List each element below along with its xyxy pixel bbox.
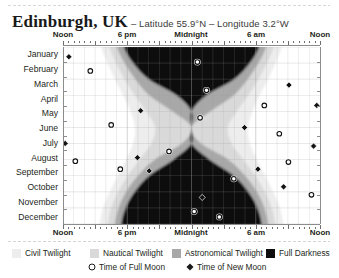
legend-row-moons: Time of Full Moon Time of New Moon (0, 262, 339, 276)
hour-tick (320, 41, 321, 45)
month-label-november: November (0, 197, 58, 207)
month-tick (317, 209, 320, 210)
hour-tick (266, 41, 267, 43)
hour-tick (63, 41, 64, 45)
full-moon-marker (192, 209, 197, 214)
legend-item-astronomical: Astronomical Twilight (172, 248, 263, 258)
hour-tick (170, 41, 171, 43)
legend-label-nautical: Nautical Twilight (103, 248, 163, 258)
hour-tick (315, 41, 316, 43)
hour-tick (106, 41, 107, 43)
month-tick (64, 62, 67, 63)
astronomical-twilight-swatch-icon (172, 249, 181, 258)
twilight-bands-svg (63, 47, 320, 224)
hour-tick (165, 41, 166, 43)
x-label-top-noon-left: Noon (53, 30, 73, 39)
hour-tick (100, 41, 101, 43)
full-moon-marker (195, 60, 200, 65)
month-tick (317, 77, 320, 78)
hour-tick (186, 41, 187, 43)
hour-tick (133, 41, 134, 43)
hour-tick (240, 41, 241, 43)
hour-tick (192, 41, 193, 45)
legend-row-bands: Civil Twilight Nautical Twilight Astrono… (0, 248, 339, 262)
hour-tick (304, 41, 305, 43)
hour-tick (127, 41, 128, 45)
x-axis-ticks-top (63, 41, 320, 46)
legend-label-full-moon: Time of Full Moon (99, 262, 165, 272)
month-tick (64, 91, 67, 92)
twilight-plot-canvas (63, 47, 320, 224)
hour-tick (224, 41, 225, 45)
x-label-top-6pm: 6 pm (118, 30, 137, 39)
chart-legend: Civil Twilight Nautical Twilight Astrono… (0, 248, 339, 276)
legend-item-civil: Civil Twilight (12, 248, 71, 258)
hour-tick (181, 41, 182, 43)
y-axis-month-labels: JanuaryFebruaryMarchAprilMayJuneJulyAugu… (0, 47, 58, 224)
hour-tick (154, 41, 155, 43)
hour-tick (197, 41, 198, 43)
full-moon-marker (262, 103, 267, 108)
hour-tick (175, 41, 176, 43)
full-moon-marker (277, 131, 282, 136)
sun-moon-chart-page: Edinburgh, UK– Latitude 55.9°N – Longitu… (0, 0, 339, 278)
month-tick (64, 180, 67, 181)
hour-tick (95, 41, 96, 45)
civil-twilight-swatch-icon (12, 249, 21, 258)
hour-tick (245, 41, 246, 43)
hour-tick (256, 41, 257, 45)
x-axis-labels-top: Noon 6 pm Midnight 6 am Noon (0, 30, 339, 41)
hour-tick (277, 41, 278, 43)
month-label-march: March (0, 79, 58, 89)
full-moon-marker (73, 159, 78, 164)
hour-tick (117, 41, 118, 43)
x-label-top-midnight: Midnight (174, 30, 207, 39)
month-tick (64, 121, 67, 122)
hour-tick (68, 41, 69, 43)
full-moon-marker (118, 167, 123, 172)
hour-tick (122, 41, 123, 43)
title-place: Edinburgh, UK (12, 12, 128, 31)
hour-tick (111, 41, 112, 43)
hour-tick (309, 41, 310, 43)
full-darkness-swatch-icon (266, 249, 275, 258)
top-divider-rule (8, 5, 330, 6)
x-axis-labels-bottom: Noon 6 pm Midnight 6 am Noon (0, 228, 339, 239)
month-tick (317, 62, 320, 63)
x-label-bottom-noon-left: Noon (53, 228, 73, 237)
month-label-august: August (0, 153, 58, 163)
month-tick (317, 195, 320, 196)
legend-item-new-moon: Time of New Moon (186, 262, 266, 272)
new-moon-marker-icon (186, 264, 193, 271)
hour-tick (272, 41, 273, 43)
month-tick (317, 121, 320, 122)
hour-tick (283, 41, 284, 43)
full-moon-marker (286, 160, 291, 165)
hour-tick (234, 41, 235, 43)
hour-tick (288, 41, 289, 45)
full-moon-marker (309, 192, 314, 197)
hour-tick (208, 41, 209, 43)
legend-item-nautical: Nautical Twilight (90, 248, 163, 258)
month-tick (64, 150, 67, 151)
month-tick (64, 209, 67, 210)
full-moon-marker (109, 123, 114, 128)
month-label-january: January (0, 49, 58, 59)
full-moon-marker (231, 177, 236, 182)
month-tick (64, 77, 67, 78)
page-title: Edinburgh, UK– Latitude 55.9°N – Longitu… (12, 12, 289, 32)
month-tick (317, 136, 320, 137)
legend-label-astronomical: Astronomical Twilight (185, 248, 263, 258)
month-tick (64, 195, 67, 196)
hour-tick (149, 41, 150, 43)
full-moon-marker-icon (88, 264, 95, 271)
month-label-september: September (0, 167, 58, 177)
hour-tick (79, 41, 80, 43)
x-label-top-6am: 6 am (247, 30, 265, 39)
full-moon-marker (88, 69, 93, 74)
month-tick (64, 165, 67, 166)
hour-tick (138, 41, 139, 43)
month-label-june: June (0, 123, 58, 133)
x-label-bottom-6am: 6 am (247, 228, 265, 237)
legend-label-new-moon: Time of New Moon (197, 262, 266, 272)
